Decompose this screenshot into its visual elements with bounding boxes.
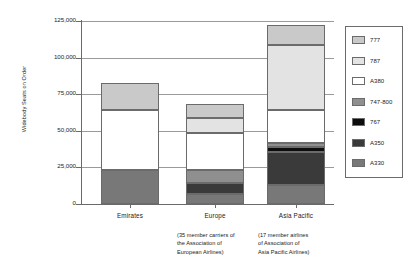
y-axis-tick-label: 75,000	[30, 90, 76, 96]
legend-label: A380	[370, 78, 384, 84]
sublabel-line: Asia Pacific Airlines)	[258, 248, 344, 256]
bar-europe[interactable]	[186, 104, 244, 204]
stacked-bar-chart: Widebody Seats on Order 125,000100,00075…	[0, 0, 416, 269]
bar-segment-a350[interactable]	[186, 183, 244, 194]
bar-segment-777[interactable]	[101, 83, 159, 111]
sublabel-line: (35 member carriers of	[177, 231, 263, 239]
y-axis-title: Widebody Seats on Order	[21, 29, 27, 169]
grid-line	[82, 21, 334, 22]
x-axis-category-sublabel: (17 member airlinesof Association ofAsia…	[258, 231, 344, 256]
legend-swatch-747-800	[352, 98, 365, 106]
bar-segment-777[interactable]	[186, 104, 244, 118]
y-axis-tick-label: 50,000	[30, 127, 76, 133]
legend-item-787[interactable]: 787	[352, 55, 380, 67]
legend-label: 777	[370, 37, 380, 43]
x-axis-tick-mark	[215, 204, 216, 208]
bar-segment-787[interactable]	[267, 45, 325, 110]
legend-item-777[interactable]: 777	[352, 34, 380, 46]
x-axis-category-label: Asia Pacific	[251, 212, 341, 219]
bar-segment-a330[interactable]	[101, 170, 159, 204]
legend-item-a330[interactable]: A330	[352, 157, 384, 169]
bar-segment-a380[interactable]	[186, 133, 244, 170]
bar-segment-777[interactable]	[267, 25, 325, 45]
bar-segment-747-800[interactable]	[186, 170, 244, 183]
legend-swatch-a350	[352, 139, 365, 147]
legend-item-a350[interactable]: A350	[352, 137, 384, 149]
legend-label: A350	[370, 140, 384, 146]
x-axis-category-label: Emirates	[85, 212, 175, 219]
sublabel-line: the Association of	[177, 239, 263, 247]
legend-item-a380[interactable]: A380	[352, 75, 384, 87]
x-axis-category-label: Europe	[170, 212, 260, 219]
bar-asia-pacific[interactable]	[267, 25, 325, 204]
legend-label: A330	[370, 160, 384, 166]
legend-swatch-787	[352, 57, 365, 65]
bar-segment-a380[interactable]	[101, 110, 159, 170]
bar-segment-a330[interactable]	[267, 185, 325, 204]
sublabel-line: European Airlines)	[177, 248, 263, 256]
legend-swatch-777	[352, 36, 365, 44]
legend-label: 787	[370, 58, 380, 64]
y-axis-tick-label: 125,000	[30, 17, 76, 23]
bar-segment-767[interactable]	[267, 147, 325, 152]
bar-segment-a330[interactable]	[186, 194, 244, 204]
bar-segment-a380[interactable]	[267, 110, 325, 143]
y-axis-tick-label: 0	[30, 200, 76, 206]
x-axis-tick-mark	[130, 204, 131, 208]
legend-label: 767	[370, 119, 380, 125]
legend-label: 747-800	[370, 99, 392, 105]
bar-segment-787[interactable]	[186, 118, 244, 133]
bar-emirates[interactable]	[101, 83, 159, 205]
bar-segment-a350[interactable]	[267, 152, 325, 185]
legend-swatch-767	[352, 118, 365, 126]
legend: 777787A380747-800767A350A330	[345, 26, 403, 178]
y-axis-tick-label: 100,000	[30, 54, 76, 60]
x-axis-tick-mark	[296, 204, 297, 208]
legend-swatch-a380	[352, 77, 365, 85]
legend-item-747-800[interactable]: 747-800	[352, 96, 392, 108]
sublabel-line: (17 member airlines	[258, 231, 344, 239]
plot-area	[82, 21, 334, 204]
sublabel-line: of Association of	[258, 239, 344, 247]
legend-swatch-a330	[352, 159, 365, 167]
y-axis-tick-label: 25,000	[30, 163, 76, 169]
legend-item-767[interactable]: 767	[352, 116, 380, 128]
bar-segment-747-800[interactable]	[267, 143, 325, 147]
x-axis-category-sublabel: (35 member carriers ofthe Association of…	[177, 231, 263, 256]
